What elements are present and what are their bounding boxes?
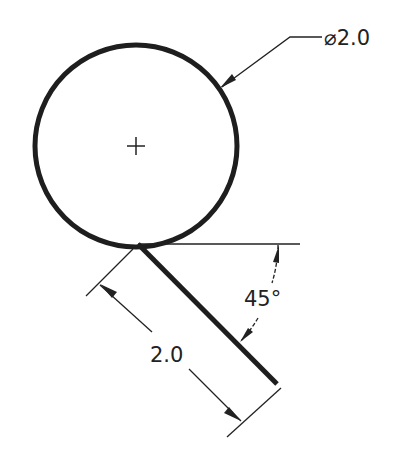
length-label: 2.0 xyxy=(150,343,183,367)
arrowhead-icon xyxy=(220,74,236,88)
diameter-label: ⌀2.0 xyxy=(324,26,370,50)
diameter-leader xyxy=(222,37,322,87)
length-extension-lines xyxy=(86,249,281,437)
arrowhead-icon xyxy=(100,284,117,298)
center-mark-icon xyxy=(127,137,145,155)
angle-label: 45° xyxy=(244,287,281,311)
arrowhead-icon xyxy=(273,245,279,263)
cad-drawing: ⌀2.0 45° 2.0 xyxy=(0,0,412,459)
arrowhead-icon xyxy=(224,407,241,421)
arrowhead-icon xyxy=(240,328,253,342)
